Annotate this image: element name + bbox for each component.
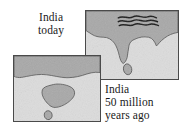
map-past-svg: [14, 56, 100, 121]
caption-today-line-1: India: [38, 11, 64, 24]
caption-past-line-3: years ago: [105, 109, 154, 122]
caption-past-line-1: India: [105, 83, 154, 96]
caption-india-50-million-years-ago: India 50 million years ago: [105, 83, 154, 122]
india-plate-tectonics-figure: India today India 50 million years ago: [0, 0, 190, 129]
caption-india-today: India today: [38, 11, 64, 37]
caption-today-line-2: today: [38, 24, 64, 37]
caption-past-line-2: 50 million: [105, 96, 154, 109]
map-panel-india-50-million-years-ago: [13, 55, 101, 122]
